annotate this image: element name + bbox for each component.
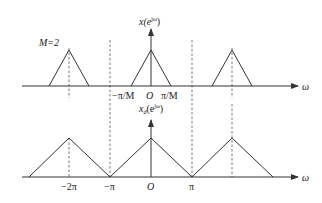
bottom-triangle-right [192,138,273,177]
m-annotation: M=2 [38,37,59,48]
tick-neg-pi: −π [104,181,115,192]
diagram-svg: x(ejω) M=2 ω −π/M O π/M xd(ejω) ω −2π −π… [0,0,322,203]
spectrum-diagram: x(ejω) M=2 ω −π/M O π/M xd(ejω) ω −2π −π… [0,0,322,203]
top-x-label: ω [302,81,309,92]
tick-origin-bottom: O [147,181,154,192]
tick-origin-top: O [146,90,153,101]
tick-pi-over-m: π/M [161,90,178,101]
bottom-x-label: ω [302,172,309,183]
bottom-triangle-left [29,138,110,177]
tick-neg-pi-over-m: −π/M [112,90,134,101]
top-plot [22,29,298,86]
tick-neg-2pi: −2π [61,181,77,192]
top-y-label: x(ejω) [138,16,160,28]
bottom-plot [22,120,298,177]
tick-pi: π [189,181,194,192]
bottom-y-label: xd(ejω) [138,103,163,115]
